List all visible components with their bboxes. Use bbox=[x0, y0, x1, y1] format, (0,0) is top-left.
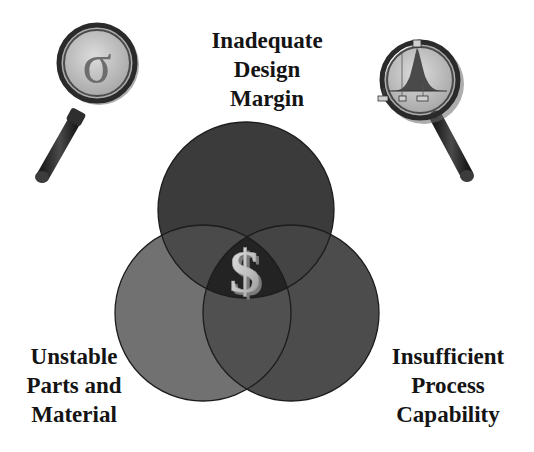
label-line: Margin bbox=[172, 84, 362, 113]
label-inadequate-design-margin: Inadequate Design Margin bbox=[172, 26, 362, 113]
label-line: Material bbox=[0, 400, 148, 429]
sigma-symbol: σ bbox=[82, 34, 111, 94]
label-line: Inadequate bbox=[172, 26, 362, 55]
label-line: Process bbox=[372, 371, 524, 400]
label-insufficient-process-capability: Insufficient Process Capability bbox=[372, 342, 524, 429]
label-line: Unstable bbox=[0, 342, 148, 371]
dollar-sign-icon: $ $ bbox=[230, 237, 264, 308]
label-line: Design bbox=[172, 55, 362, 84]
magnifying-glass-sigma-icon: σ bbox=[35, 25, 139, 183]
label-line: Parts and bbox=[0, 371, 148, 400]
magnifying-glass-bell-curve-icon bbox=[378, 40, 474, 182]
label-line: Capability bbox=[372, 400, 524, 429]
svg-text:$: $ bbox=[230, 237, 261, 305]
label-line: Insufficient bbox=[372, 342, 524, 371]
label-unstable-parts-material: Unstable Parts and Material bbox=[0, 342, 148, 429]
